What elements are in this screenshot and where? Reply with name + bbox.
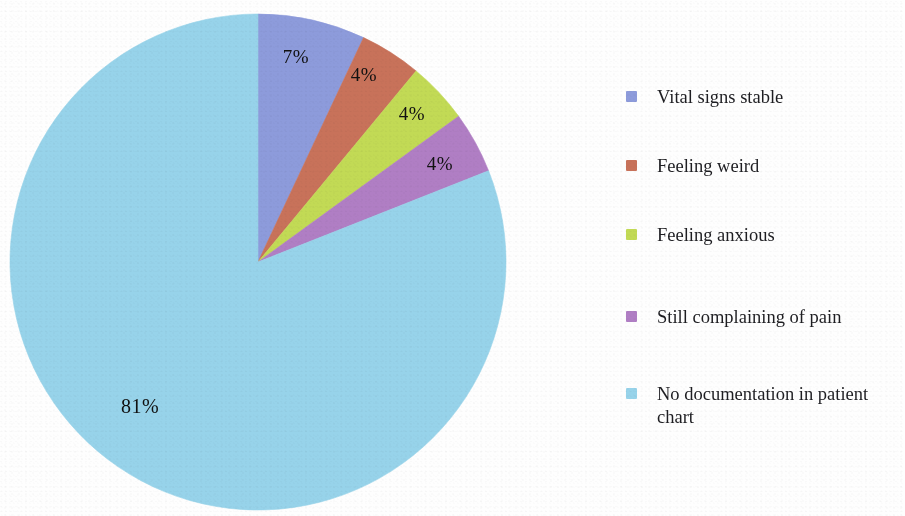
- legend-swatch-icon: [626, 160, 637, 171]
- legend-item-label: Vital signs stable: [657, 86, 783, 109]
- pie-svg: [0, 0, 530, 516]
- legend-item[interactable]: Vital signs stable: [626, 86, 783, 109]
- legend-item-label: No documentation in patient chart: [657, 383, 889, 429]
- pie-slice-label: 4%: [351, 64, 377, 86]
- pie-slice-label: 4%: [399, 103, 425, 125]
- legend-item[interactable]: Feeling weird: [626, 155, 759, 178]
- legend-swatch-icon: [626, 229, 637, 240]
- legend-swatch-icon: [626, 311, 637, 322]
- legend-item[interactable]: Still complaining of pain: [626, 306, 841, 329]
- pie-slice-label: 4%: [427, 153, 453, 175]
- legend-swatch-icon: [626, 91, 637, 102]
- legend-item[interactable]: No documentation in patient chart: [626, 383, 889, 429]
- legend-item-label: Still complaining of pain: [657, 306, 841, 329]
- pie-slices: [10, 14, 506, 510]
- legend-item-label: Feeling anxious: [657, 224, 775, 247]
- legend-item-label: Feeling weird: [657, 155, 759, 178]
- pie-chart-area: 7%4%4%4%81%: [0, 0, 530, 516]
- pie-chart-figure: 7%4%4%4%81% Vital signs stableFeeling we…: [0, 0, 905, 516]
- pie-slice-label: 81%: [121, 395, 159, 418]
- legend-swatch-icon: [626, 388, 637, 399]
- pie-slice-label: 7%: [283, 46, 309, 68]
- legend-item[interactable]: Feeling anxious: [626, 224, 775, 247]
